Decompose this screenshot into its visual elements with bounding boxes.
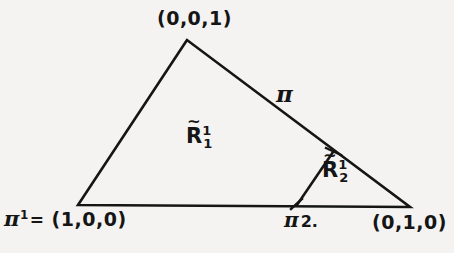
edge-label-pi: π bbox=[276, 82, 293, 105]
region-label-2: ~R12 bbox=[322, 158, 348, 184]
tilde-accent-icon: ~ bbox=[187, 114, 201, 130]
base-split-label: π2. bbox=[284, 210, 318, 230]
region-letter: ~R bbox=[186, 124, 202, 148]
left-vertex-coords: (1,0,0) bbox=[52, 208, 127, 230]
triangle-outline bbox=[78, 40, 410, 207]
vertex-label-apex: (0,0,1) bbox=[157, 9, 232, 28]
equals-sign: = bbox=[30, 210, 45, 230]
region-letter: ~R bbox=[322, 158, 338, 182]
pi-glyph: π bbox=[4, 206, 20, 231]
region-subscript: 1 bbox=[203, 136, 212, 151]
figure-canvas: (0,0,1) (0,1,0) π1= (1,0,0) π2. π ~R11 ~… bbox=[0, 0, 454, 253]
region-subscript: 2 bbox=[339, 170, 348, 185]
pi-superscript: 2. bbox=[301, 212, 318, 231]
vertex-label-left: π1= (1,0,0) bbox=[4, 208, 127, 229]
vertex-label-right: (0,1,0) bbox=[372, 213, 447, 232]
region-label-1: ~R11 bbox=[186, 124, 212, 150]
tilde-accent-icon: ~ bbox=[323, 148, 337, 164]
pi-superscript: 1 bbox=[20, 208, 29, 222]
pi-glyph: π bbox=[284, 208, 299, 232]
